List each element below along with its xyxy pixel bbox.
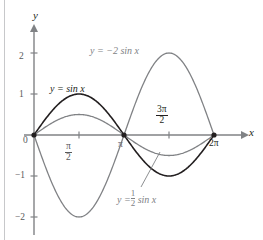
half-sin-suffix: sin x bbox=[138, 194, 157, 205]
x-tick-label-pi-over-2: π 2 bbox=[65, 142, 72, 163]
sine-transformations-figure: y x 0 2 1 −1 −2 π 2 π 3π 2 2π y = sin x … bbox=[0, 0, 263, 240]
origin-label: 0 bbox=[23, 136, 28, 146]
fraction-3pi-over-2: 3π 2 bbox=[156, 105, 168, 126]
x-tick-label-3pi-over-2: 3π 2 bbox=[156, 105, 168, 126]
marked-point bbox=[31, 132, 36, 137]
fraction-one-half: 1 2 bbox=[131, 189, 136, 209]
fraction-denominator: 2 bbox=[156, 116, 168, 126]
y-tick-label-minus-1: −1 bbox=[15, 171, 25, 181]
y-axis-label: y bbox=[33, 10, 38, 21]
marked-point bbox=[121, 132, 126, 137]
curve-label-neg-two-sin-x: y = −2 sin x bbox=[90, 46, 139, 56]
y-tick-label-minus-2: −2 bbox=[15, 213, 25, 223]
x-tick-label-pi: π bbox=[118, 140, 123, 150]
y-axis-arrow bbox=[30, 24, 38, 32]
half-sin-prefix: y = bbox=[117, 194, 131, 205]
fraction-denominator: 2 bbox=[131, 199, 136, 208]
y-tick-label-2: 2 bbox=[19, 52, 24, 62]
x-axis-arrow bbox=[241, 131, 249, 139]
x-axis-label: x bbox=[249, 127, 254, 138]
y-tick-label-1: 1 bbox=[19, 90, 24, 100]
fraction-pi-over-2: π 2 bbox=[65, 142, 72, 163]
leader-line-half-sin bbox=[141, 152, 160, 187]
fraction-denominator: 2 bbox=[65, 153, 72, 163]
curve-label-half-sin-x: y = 1 2 sin x bbox=[117, 189, 156, 209]
x-tick-label-2pi: 2π bbox=[209, 139, 219, 149]
curve-label-sin-x: y = sin x bbox=[50, 84, 85, 94]
marked-point bbox=[211, 132, 216, 137]
